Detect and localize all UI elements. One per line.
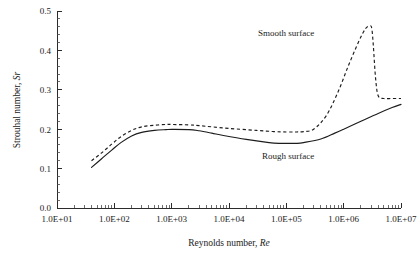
y-axis-title-text: Strouhal number, [12,80,22,148]
annotation-rough-surface: Rough surface [262,151,314,161]
y-tick-label: 0.2 [40,125,51,135]
x-axis-ticks [57,203,401,208]
x-tick-label: 1.0E+03 [156,214,187,224]
x-tick-label: 1.0E+04 [214,214,245,224]
x-axis-tick-labels: 1.0E+011.0E+021.0E+031.0E+041.0E+051.0E+… [42,214,417,224]
x-axis-title-text: Reynolds number, [188,238,260,248]
y-tick-label: 0.1 [40,164,51,174]
y-tick-label: 0.5 [40,6,52,16]
annotation-smooth-surface: Smooth surface [258,28,314,38]
strouhal-reynolds-chart: 1.0E+011.0E+021.0E+031.0E+041.0E+051.0E+… [0,0,418,257]
y-tick-label: 0.4 [40,46,52,56]
x-axis-title-symbol: Re [259,238,270,248]
series-line-rough-surface [92,104,401,167]
x-tick-label: 1.0E+06 [328,214,359,224]
y-axis-title-symbol: Sr [12,71,22,80]
x-tick-label: 1.0E+07 [386,214,417,224]
x-tick-label: 1.0E+02 [99,214,130,224]
series-line-smooth-surface [92,26,401,161]
y-axis-tick-labels: 0.00.10.20.30.40.5 [40,6,52,213]
y-axis-ticks [57,11,62,208]
y-tick-label: 0.3 [40,85,52,95]
x-axis-title: Reynolds number, Re [188,238,270,248]
y-tick-label: 0.0 [40,203,52,213]
chart-page: 1.0E+011.0E+021.0E+031.0E+041.0E+051.0E+… [0,0,418,257]
axes-group [57,11,401,208]
x-tick-label: 1.0E+01 [42,214,73,224]
y-axis-title: Strouhal number, Sr [12,71,22,148]
x-tick-label: 1.0E+05 [271,214,302,224]
